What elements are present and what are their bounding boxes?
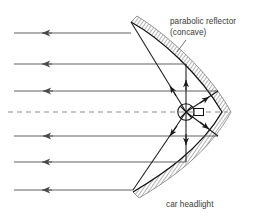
label-parabolic-reflector-line1: parabolic reflector xyxy=(170,17,236,26)
reflector-hatching xyxy=(125,16,231,198)
label-car-headlight: car headlight xyxy=(166,200,214,211)
label-parabolic-reflector: parabolic reflector(concave) xyxy=(170,17,236,38)
label-parabolic-reflector-line2: (concave) xyxy=(170,28,206,37)
ray-diagram-figure: parabolic reflector(concave) car headlig… xyxy=(0,0,256,217)
bulb-holder-rect xyxy=(194,109,204,116)
bulb-at-focus xyxy=(178,104,204,120)
